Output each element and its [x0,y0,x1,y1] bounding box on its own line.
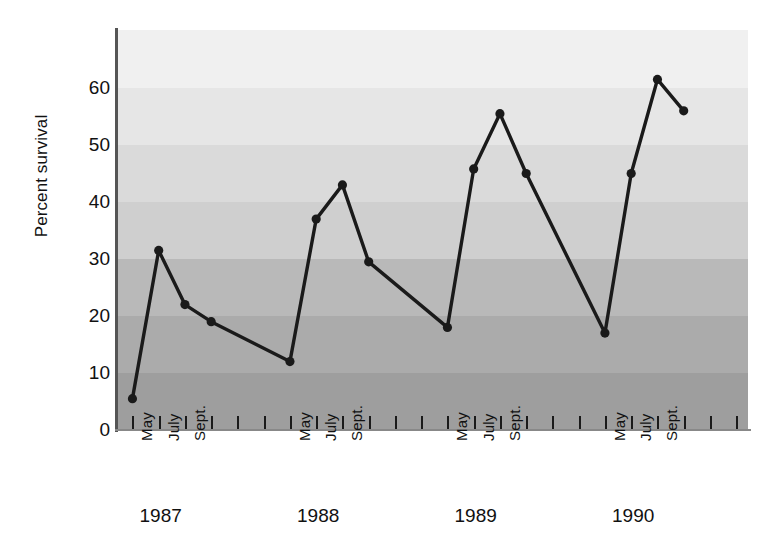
x-year-label: 1989 [455,505,497,527]
x-month-label: July [165,414,182,441]
data-point-marker [600,329,609,338]
y-tick-label: 20 [64,306,110,325]
data-point-marker [128,394,137,403]
data-point-marker [285,357,294,366]
x-year-label: 1987 [140,505,182,527]
x-tick [132,416,134,430]
y-tick-label: 0 [64,420,110,439]
x-tick [552,416,554,430]
data-point-marker [679,106,688,115]
data-point-marker [443,323,452,332]
x-tick [447,416,449,430]
x-tick [185,416,187,430]
x-tick [237,416,239,430]
y-tick-label: 30 [64,249,110,268]
x-tick [159,416,161,430]
x-tick [657,416,659,430]
x-month-label: July [322,414,339,441]
x-month-label: May [296,412,313,441]
data-point-marker [312,215,321,224]
x-month-label: May [611,412,628,441]
x-month-label: July [637,414,654,441]
x-tick [290,416,292,430]
x-tick [342,416,344,430]
data-point-marker [522,169,531,178]
x-month-label: May [453,412,470,441]
x-tick [500,416,502,430]
x-month-label: Sept. [348,405,365,441]
x-tick [369,416,371,430]
y-axis-line [115,28,118,432]
x-month-label: Sept. [506,405,523,441]
x-tick [605,416,607,430]
x-tick [579,416,581,430]
x-tick [684,416,686,430]
data-point-marker [154,246,163,255]
x-month-label: Sept. [191,405,208,441]
y-axis-title: Percent survival [32,66,52,286]
data-line-series [118,30,748,430]
x-month-label: May [138,412,155,441]
data-point-marker [653,75,662,84]
y-tick-label: 10 [64,363,110,382]
series-line [132,79,683,398]
x-month-label: July [480,414,497,441]
y-tick-label: 60 [64,78,110,97]
x-tick [264,416,266,430]
data-point-marker [364,257,373,266]
x-year-label: 1990 [612,505,654,527]
chart-figure: Percent survival 0102030405060 MayJulySe… [0,0,780,552]
x-tick [631,416,633,430]
data-point-marker [627,169,636,178]
x-axis-line [115,429,751,431]
data-point-marker [207,317,216,326]
x-tick [526,416,528,430]
plot-area [118,30,748,430]
x-tick [395,416,397,430]
x-tick [421,416,423,430]
y-axis-tick-labels: 0102030405060 [58,0,110,552]
y-tick-label: 50 [64,135,110,154]
data-point-marker [495,109,504,118]
x-tick [316,416,318,430]
data-point-marker [469,164,478,173]
x-tick [710,416,712,430]
x-month-label: Sept. [663,405,680,441]
x-tick [211,416,213,430]
x-tick [736,416,738,430]
x-year-label: 1988 [297,505,339,527]
data-point-marker [338,180,347,189]
data-point-marker [180,300,189,309]
y-tick-label: 40 [64,192,110,211]
x-tick [474,416,476,430]
